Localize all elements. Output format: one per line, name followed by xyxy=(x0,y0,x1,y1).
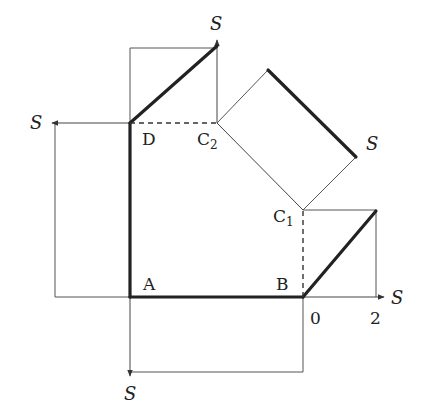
tick-2: 2 xyxy=(370,308,381,328)
tick-0: 0 xyxy=(310,308,321,328)
label-top-S: S xyxy=(210,13,222,34)
label-diagonal-S: S xyxy=(366,133,378,154)
left-projection xyxy=(52,123,130,297)
right-shear-line xyxy=(303,211,376,297)
label-left-S: S xyxy=(30,112,42,133)
shear-diagram: A B D C2 C1 S S S S S 0 2 xyxy=(0,0,421,420)
label-right-S: S xyxy=(391,287,403,308)
top-projection xyxy=(130,40,217,123)
label-C2: C2 xyxy=(197,129,218,152)
diagonal-projection xyxy=(217,70,356,210)
diagonal-shear-line xyxy=(268,70,356,157)
right-projection xyxy=(303,210,384,297)
top-shear-line xyxy=(130,46,217,123)
label-bottom-S: S xyxy=(124,383,136,404)
label-B: B xyxy=(276,274,289,294)
label-D: D xyxy=(142,129,156,149)
label-C1: C1 xyxy=(273,206,294,229)
bottom-projection xyxy=(130,297,303,376)
label-A: A xyxy=(142,274,156,294)
